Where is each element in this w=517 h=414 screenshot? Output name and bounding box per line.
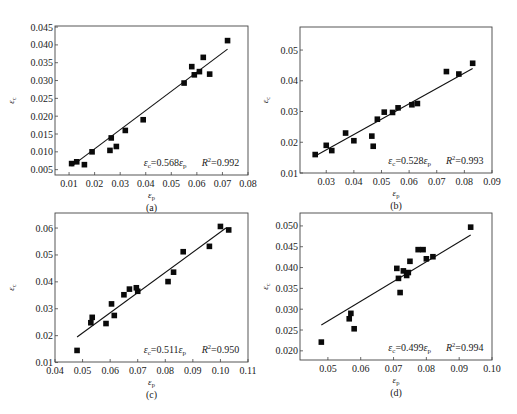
fit-equation: εc=0.568εp bbox=[144, 157, 187, 170]
y-axis-label: εc bbox=[260, 283, 271, 290]
data-point bbox=[89, 315, 95, 321]
r-squared: R2=0.993 bbox=[445, 154, 484, 166]
y-tick-label: 0.030 bbox=[31, 75, 54, 86]
y-tick-label: 0.025 bbox=[31, 93, 54, 104]
y-tick-label: 0.020 bbox=[31, 111, 54, 122]
x-axis: 0.040.050.060.070.080.090.100.11 bbox=[46, 359, 256, 376]
y-tick-label: 0.03 bbox=[36, 303, 54, 314]
data-point bbox=[468, 224, 474, 230]
x-axis-label: εp bbox=[148, 377, 155, 388]
data-point bbox=[121, 292, 127, 298]
data-point bbox=[406, 270, 412, 276]
data-point bbox=[225, 38, 231, 44]
x-tick-label: 0.06 bbox=[188, 178, 206, 189]
chart-panel-c: 0.040.050.060.070.080.090.100.110.010.02… bbox=[6, 213, 257, 401]
y-tick-label: 0.045 bbox=[276, 241, 299, 252]
data-point bbox=[109, 301, 115, 307]
data-point bbox=[415, 101, 421, 107]
data-point bbox=[370, 143, 376, 149]
data-point bbox=[396, 276, 402, 282]
y-tick-label: 0.04 bbox=[36, 276, 54, 287]
figure: 0.010.020.030.040.050.060.070.080.0050.0… bbox=[0, 0, 517, 414]
plot-frame bbox=[300, 213, 492, 360]
panel-caption: (c) bbox=[146, 389, 157, 401]
data-points bbox=[69, 38, 231, 168]
r-squared: R2=0.950 bbox=[201, 343, 240, 355]
data-point bbox=[180, 249, 186, 255]
data-point bbox=[397, 290, 403, 296]
data-point bbox=[114, 144, 120, 150]
data-point bbox=[103, 321, 109, 327]
data-point bbox=[456, 71, 462, 77]
data-point bbox=[381, 109, 387, 115]
data-point bbox=[189, 64, 195, 70]
data-point bbox=[192, 72, 198, 78]
data-point bbox=[470, 60, 476, 66]
chart-panel-b: 0.030.040.050.060.070.080.090.010.020.03… bbox=[260, 27, 501, 212]
plot-frame bbox=[55, 213, 248, 362]
data-point bbox=[415, 247, 421, 253]
data-point bbox=[390, 110, 396, 116]
x-tick-label: 0.09 bbox=[184, 365, 202, 376]
y-tick-label: 0.020 bbox=[276, 345, 299, 356]
data-point bbox=[171, 269, 177, 275]
x-tick-label: 0.06 bbox=[400, 176, 418, 187]
y-tick-label: 0.01 bbox=[281, 168, 299, 179]
y-tick-label: 0.01 bbox=[36, 357, 54, 368]
data-points bbox=[312, 60, 475, 157]
y-tick-label: 0.06 bbox=[36, 223, 54, 234]
x-tick-label: 0.02 bbox=[86, 178, 104, 189]
data-point bbox=[107, 148, 113, 154]
y-axis: 0.0200.0250.0300.0350.0400.0450.050 bbox=[276, 220, 304, 356]
data-point bbox=[312, 152, 318, 158]
y-tick-label: 0.05 bbox=[281, 45, 299, 56]
data-point bbox=[394, 266, 400, 272]
x-axis-label: εp bbox=[393, 188, 400, 199]
panel-caption: (d) bbox=[390, 387, 402, 399]
fit-line bbox=[72, 49, 228, 166]
data-point bbox=[200, 55, 206, 61]
x-tick-label: 0.05 bbox=[74, 365, 92, 376]
x-tick-label: 0.06 bbox=[352, 363, 370, 374]
data-points bbox=[319, 224, 474, 345]
chart-panel-a: 0.010.020.030.040.050.060.070.080.0050.0… bbox=[6, 22, 257, 214]
y-axis-label: εc bbox=[260, 97, 271, 104]
x-axis-label: εp bbox=[393, 375, 400, 386]
r-squared: R2=0.992 bbox=[201, 156, 240, 168]
x-tick-label: 0.08 bbox=[418, 363, 436, 374]
x-tick-label: 0.07 bbox=[129, 365, 147, 376]
data-point bbox=[395, 105, 401, 111]
data-point bbox=[407, 259, 413, 265]
x-tick-label: 0.10 bbox=[212, 365, 230, 376]
y-tick-label: 0.04 bbox=[281, 75, 299, 86]
x-tick-label: 0.08 bbox=[456, 176, 474, 187]
x-tick-label: 0.07 bbox=[385, 363, 403, 374]
y-tick-label: 0.040 bbox=[276, 262, 299, 273]
panel-caption: (b) bbox=[390, 200, 402, 212]
x-tick-label: 0.04 bbox=[137, 178, 155, 189]
data-point bbox=[369, 133, 375, 139]
y-tick-label: 0.03 bbox=[281, 106, 299, 117]
chart-panel-d: 0.050.060.070.080.090.100.0200.0250.0300… bbox=[260, 213, 501, 399]
plot-frame bbox=[55, 26, 248, 175]
y-tick-label: 0.035 bbox=[276, 283, 299, 294]
data-point bbox=[197, 69, 203, 75]
y-tick-label: 0.02 bbox=[36, 330, 54, 341]
x-tick-label: 0.05 bbox=[319, 363, 337, 374]
x-axis-label: εp bbox=[148, 190, 155, 201]
x-axis: 0.050.060.070.080.090.10 bbox=[319, 357, 501, 374]
x-tick-label: 0.01 bbox=[60, 178, 78, 189]
data-point bbox=[74, 159, 80, 165]
fit-equation: εc=0.499εp bbox=[388, 342, 431, 355]
y-tick-label: 0.02 bbox=[281, 137, 299, 148]
data-point bbox=[111, 313, 117, 319]
data-point bbox=[343, 130, 349, 136]
x-tick-label: 0.11 bbox=[239, 365, 256, 376]
y-tick-label: 0.005 bbox=[31, 164, 54, 175]
data-point bbox=[348, 311, 354, 317]
fit-line bbox=[77, 228, 226, 337]
data-point bbox=[424, 256, 430, 262]
data-point bbox=[207, 244, 213, 250]
y-axis-label: εc bbox=[6, 97, 17, 104]
fit-equation: εc=0.511εp bbox=[144, 344, 187, 357]
